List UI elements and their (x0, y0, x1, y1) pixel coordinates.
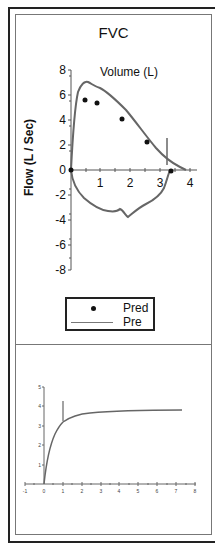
svg-text:4: 4 (59, 113, 66, 127)
svg-text:2: 2 (127, 176, 134, 190)
svg-text:7: 7 (175, 488, 178, 494)
legend: Pred Pre (65, 297, 155, 331)
svg-text:1: 1 (38, 462, 41, 468)
bottom-y-tick-labels: 5 4 3 2 1 (38, 384, 41, 468)
charts-canvas: 8 6 4 2 0 -2 -4 -6 -8 1 2 3 4 (0, 0, 216, 548)
pre-inspiratory-curve (71, 170, 170, 217)
svg-text:-8: -8 (55, 263, 66, 277)
svg-text:3: 3 (100, 488, 103, 494)
line-marker-icon (71, 322, 113, 323)
flow-volume-chart: 8 6 4 2 0 -2 -4 -6 -8 1 2 3 4 (55, 63, 197, 277)
svg-text:2: 2 (59, 138, 66, 152)
bottom-x-tick-labels: -1 0 1 2 3 4 5 6 7 8 (23, 488, 197, 494)
svg-text:4: 4 (187, 176, 194, 190)
svg-text:8: 8 (194, 488, 197, 494)
svg-text:-4: -4 (55, 213, 66, 227)
svg-text:3: 3 (157, 176, 164, 190)
svg-text:0: 0 (59, 163, 66, 177)
svg-text:-1: -1 (23, 488, 28, 494)
svg-text:6: 6 (156, 488, 159, 494)
volume-time-curve (44, 410, 182, 484)
svg-text:2: 2 (81, 488, 84, 494)
x-tick-labels: 1 2 3 4 (97, 176, 194, 190)
svg-text:5: 5 (137, 488, 140, 494)
pred-markers (69, 98, 174, 174)
dot-marker-icon (91, 306, 96, 311)
svg-text:1: 1 (62, 488, 65, 494)
svg-text:4: 4 (118, 488, 121, 494)
legend-item-pred: Pred (67, 301, 153, 315)
pre-expiratory-curve (71, 82, 186, 170)
legend-label-pre: Pre (123, 315, 142, 329)
legend-item-pre: Pre (67, 315, 153, 329)
volume-time-chart: -1 0 1 2 3 4 5 6 7 8 5 4 3 2 1 (23, 384, 197, 494)
y-tick-labels: 8 6 4 2 0 -2 -4 -6 -8 (55, 63, 66, 277)
svg-text:4: 4 (38, 403, 41, 409)
svg-text:1: 1 (97, 176, 104, 190)
svg-text:8: 8 (59, 63, 66, 77)
svg-text:6: 6 (59, 88, 66, 102)
svg-text:-2: -2 (55, 188, 66, 202)
legend-label-pred: Pred (123, 301, 148, 315)
svg-text:2: 2 (38, 442, 41, 448)
svg-text:3: 3 (38, 423, 41, 429)
svg-text:5: 5 (38, 384, 41, 390)
svg-text:-6: -6 (55, 238, 66, 252)
svg-text:0: 0 (43, 488, 46, 494)
